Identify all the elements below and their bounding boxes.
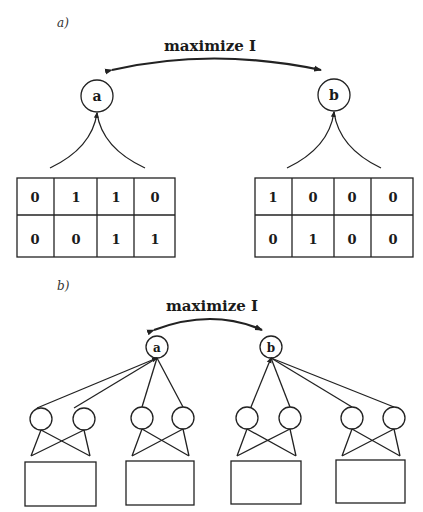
diagram-canvas: a) maximize I a b 0 1 1 0 0 0 1 [0,0,423,512]
cell: 0 [388,190,397,205]
input-table-right: 1 0 0 0 0 1 0 0 [255,178,413,257]
cell: 0 [308,190,317,205]
input-table-left: 0 1 1 0 0 0 1 1 [17,178,175,257]
node-b-label: b [329,87,339,103]
cell: 1 [308,232,317,247]
hidden-group-1 [25,408,96,506]
mutual-info-arrow-b [154,319,262,330]
node-a-label: a [153,341,161,355]
cell: 0 [71,232,80,247]
node-a-label: a [92,88,101,104]
mutual-info-arrow-a [112,59,321,71]
input-box [336,460,405,503]
cell: 1 [111,232,120,247]
hidden-group-3 [231,407,301,504]
hidden-group-4 [336,407,405,503]
cell: 0 [388,232,397,247]
panel-b-label: b) [57,279,70,293]
cell: 1 [111,190,120,205]
cell: 0 [347,190,356,205]
cell: 1 [268,190,277,205]
cell: 0 [30,232,39,247]
cell: 0 [150,190,159,205]
cell: 1 [150,232,159,247]
panel-a-label: a) [57,16,69,30]
node-b-label: b [267,341,275,355]
panel-b: b) maximize I a b [25,279,405,506]
panel-a: a) maximize I a b 0 1 1 0 0 0 1 [17,16,413,257]
objective-label-b: maximize I [166,297,258,315]
cell: 0 [268,232,277,247]
objective-label-a: maximize I [164,37,256,55]
input-box [126,461,194,505]
cell: 0 [347,232,356,247]
input-box [25,462,96,506]
cell: 1 [71,190,80,205]
input-box [231,461,301,504]
hidden-group-2 [126,407,194,505]
cell: 0 [30,190,39,205]
